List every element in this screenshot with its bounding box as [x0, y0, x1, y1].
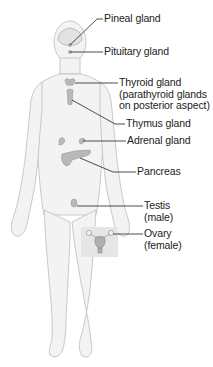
- label-pancreas: Pancreas: [137, 166, 181, 178]
- ovary-line-1: Ovary: [144, 228, 182, 240]
- label-adrenal-gland: Adrenal gland: [127, 135, 191, 147]
- label-testis: Testis (male): [144, 200, 173, 223]
- label-pineal-gland: Pineal gland: [104, 13, 161, 25]
- thyroid-line-1: Thyroid gland: [119, 77, 210, 89]
- label-thymus-gland: Thymus gland: [126, 118, 191, 130]
- thyroid-line-3: on posterior aspect): [119, 100, 210, 112]
- ovary-inset: [81, 227, 118, 257]
- ovary-line-2: (female): [144, 240, 182, 252]
- label-pituitary-gland: Pituitary gland: [104, 46, 169, 58]
- testis-line-1: Testis: [144, 200, 173, 212]
- testis-line-2: (male): [144, 212, 173, 224]
- testis: [71, 199, 77, 207]
- thymus-gland: [67, 89, 73, 105]
- label-ovary: Ovary (female): [144, 228, 182, 251]
- label-thyroid-gland: Thyroid gland (parathyroid glands on pos…: [119, 77, 210, 112]
- body-silhouette: [11, 21, 129, 357]
